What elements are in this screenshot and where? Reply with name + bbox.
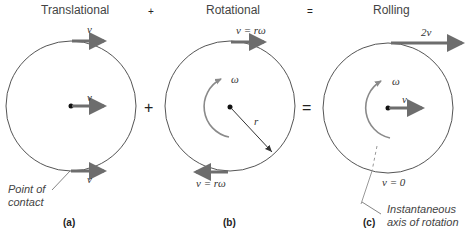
pointer-line-contact <box>52 171 70 190</box>
label-bottom-velocity-b: v = rω <box>196 177 226 189</box>
pointer-line-axis <box>362 202 381 214</box>
label-top-velocity-c: 2v <box>421 26 432 38</box>
label-omega-c: ω <box>392 75 400 87</box>
label-center-velocity-c: v <box>402 93 407 105</box>
angular-velocity-arc-b <box>204 79 229 137</box>
panel-a-translational: v v v Point of contact (a) <box>6 23 136 228</box>
annotation-point-of-contact-1: Point of <box>8 183 46 195</box>
label-bottom-velocity-a: v <box>87 173 92 185</box>
axis-of-rotation-dashed <box>372 146 377 171</box>
radius-arrow-b <box>231 108 272 152</box>
label-top-velocity-a: v <box>87 23 92 35</box>
plus-operator-top: + <box>148 6 154 17</box>
label-contact-velocity-c: v = 0 <box>382 176 406 188</box>
annotation-instantaneous-axis-1: Instantaneous <box>387 203 457 215</box>
title-rotational: Rotational <box>206 3 260 17</box>
caption-a: (a) <box>63 217 75 228</box>
caption-b: (b) <box>223 217 236 228</box>
annotation-instantaneous-axis-2: axis of rotation <box>387 216 459 228</box>
title-translational: Translational <box>41 3 109 17</box>
axis-of-rotation-line <box>361 171 372 204</box>
plus-operator: + <box>144 99 153 116</box>
panel-c-rolling: 2v ω v v = 0 Instantaneous axis of rotat… <box>323 26 462 228</box>
equals-operator: = <box>302 99 311 116</box>
caption-c: (c) <box>363 217 375 228</box>
annotation-point-of-contact-2: contact <box>8 196 44 208</box>
panel-b-rotational: v = rω ω r v = rω (b) <box>165 24 295 228</box>
rolling-motion-diagram: Translational + Rotational = Rolling v v… <box>0 0 476 237</box>
label-center-velocity-a: v <box>87 91 92 103</box>
equals-operator-top: = <box>307 6 313 17</box>
label-top-velocity-b: v = rω <box>236 24 266 36</box>
title-rolling: Rolling <box>373 3 410 17</box>
label-omega-b: ω <box>231 73 239 85</box>
label-radius-b: r <box>254 115 259 127</box>
